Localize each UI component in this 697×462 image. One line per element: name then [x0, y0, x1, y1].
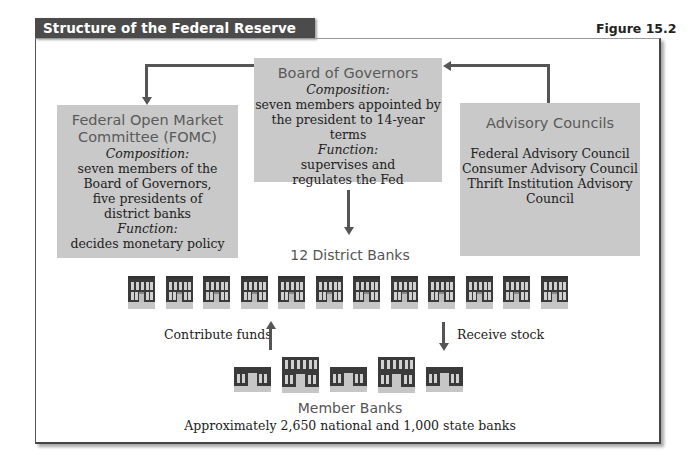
connector-member-to-district	[269, 328, 272, 350]
arrow-down-icon	[439, 343, 449, 351]
district-bank-icon	[353, 276, 380, 310]
connector-advisory-to-board-vertical	[547, 64, 550, 103]
arrow-down-icon	[142, 97, 152, 105]
fomc-composition-line: seven members of the	[57, 161, 238, 176]
member-bank-icon	[282, 357, 319, 393]
figure-title: Structure of the Federal Reserve System	[35, 18, 315, 39]
receive-stock-label: Receive stock	[457, 327, 544, 342]
district-bank-icon	[128, 276, 155, 310]
board-composition-label: Composition:	[254, 82, 442, 97]
district-bank-icon	[503, 276, 530, 310]
board-composition-line: seven members appointed by	[254, 97, 442, 112]
fomc-composition-line: district banks	[57, 206, 238, 221]
board-of-governors-box: Board of Governors Composition: seven me…	[254, 58, 442, 182]
figure-number: Figure 15.2	[596, 21, 677, 36]
member-banks-label: Member Banks	[200, 400, 500, 416]
board-composition-line: the president to 14-year terms	[254, 112, 442, 142]
board-function-label: Function:	[254, 142, 442, 157]
district-bank-icon	[466, 276, 493, 310]
connector-advisory-to-board-horizontal	[450, 64, 550, 67]
fomc-title-line: Committee (FOMC)	[57, 129, 238, 146]
connector-board-to-district	[347, 190, 350, 228]
district-bank-icon	[391, 276, 418, 310]
district-bank-icon	[203, 276, 230, 310]
district-bank-icon	[541, 276, 568, 310]
board-function-line: supervises and	[254, 157, 442, 172]
fomc-function-line: decides monetary policy	[57, 236, 238, 251]
member-bank-icon	[378, 357, 415, 393]
advisory-council-item: Thrift Institution Advisory	[460, 176, 640, 191]
member-bank-icon	[426, 367, 463, 392]
board-function-line: regulates the Fed	[254, 172, 442, 187]
fomc-composition-line: five presidents of	[57, 191, 238, 206]
advisory-council-item: Consumer Advisory Council	[460, 161, 640, 176]
district-bank-icon	[241, 276, 268, 310]
fomc-function-label: Function:	[57, 221, 238, 236]
advisory-council-item: Council	[460, 191, 640, 206]
connector-board-to-fomc-vertical	[145, 64, 148, 98]
fomc-composition-label: Composition:	[57, 146, 238, 161]
advisory-council-item: Federal Advisory Council	[460, 146, 640, 161]
district-bank-icon	[166, 276, 193, 310]
district-bank-icon	[316, 276, 343, 310]
board-title: Board of Governors	[254, 65, 442, 82]
arrow-left-icon	[443, 61, 451, 71]
advisory-councils-box: Advisory Councils Federal Advisory Counc…	[460, 103, 640, 256]
fomc-title-line: Federal Open Market	[57, 112, 238, 129]
district-banks-row	[128, 276, 578, 310]
arrow-down-icon	[344, 227, 354, 235]
contribute-funds-label: Contribute funds	[164, 327, 272, 342]
fomc-box: Federal Open Market Committee (FOMC) Com…	[57, 105, 238, 258]
advisory-title: Advisory Councils	[460, 115, 640, 132]
member-banks-description: Approximately 2,650 national and 1,000 s…	[150, 418, 550, 433]
connector-board-to-fomc-horizontal	[146, 64, 254, 67]
connector-district-to-member	[442, 322, 445, 344]
member-bank-icon	[234, 367, 271, 392]
fomc-composition-line: Board of Governors,	[57, 176, 238, 191]
district-bank-icon	[428, 276, 455, 310]
district-bank-icon	[278, 276, 305, 310]
member-bank-icon	[330, 367, 367, 392]
district-banks-label: 12 District Banks	[250, 247, 450, 263]
